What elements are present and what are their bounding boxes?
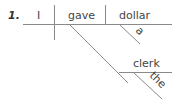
direct-object-modifier-word: a (133, 24, 147, 38)
item-number: 1. (8, 9, 20, 22)
direct-object-word: dollar (119, 9, 151, 22)
subject-word: I (37, 9, 40, 22)
sentence-diagram: 1. I gave dollar a clerk the (0, 0, 179, 101)
verb-word: gave (68, 9, 95, 22)
indirect-object-slant-line (70, 25, 128, 83)
